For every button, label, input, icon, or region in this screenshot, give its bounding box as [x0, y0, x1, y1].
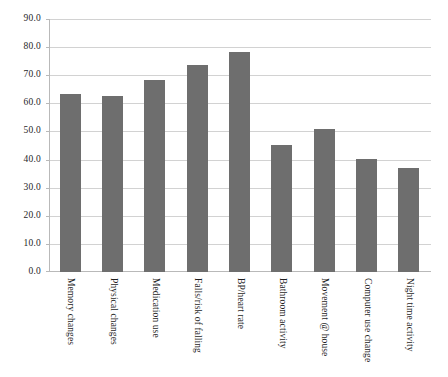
y-tick-label-40: 40.0	[24, 155, 41, 165]
x-label-slot: Computer use change	[356, 272, 377, 377]
x-label-slot: Memory changes	[60, 272, 81, 377]
bar-medication-use[interactable]	[144, 80, 165, 272]
bar-computer-use-change[interactable]	[356, 159, 377, 272]
x-tick-label-night-time-activity: Night time activity	[404, 278, 414, 352]
bar-memory-changes[interactable]	[60, 94, 81, 272]
x-tick-label-computer-use-change: Computer use change	[362, 278, 372, 362]
x-tick-label-physical-changes: Physical changes	[108, 278, 118, 345]
x-axis-labels: Memory changes Physical changes Medicati…	[49, 272, 430, 377]
x-tick-label-memory-changes: Memory changes	[65, 278, 75, 345]
x-tick-label-bp-heart-rate: BP/heart rate	[235, 278, 245, 329]
y-tick-label-30: 30.0	[24, 183, 41, 193]
x-label-slot: BP/heart rate	[229, 272, 250, 377]
bar-falls-risk-of-falling[interactable]	[187, 65, 208, 272]
y-tick-label-20: 20.0	[24, 211, 41, 221]
x-tick-label-bathroom-activity: Bathroom activity	[277, 278, 287, 349]
x-tick-label-medication-use: Medication use	[150, 278, 160, 338]
x-label-slot: Movement @ house	[314, 272, 335, 377]
y-tick-label-50: 50.0	[24, 127, 41, 137]
bar-chart: 90.0 80.0 70.0 60.0 50.0 40.0 30.0 20.0 …	[0, 0, 448, 377]
x-label-slot: Bathroom activity	[271, 272, 292, 377]
bar-physical-changes[interactable]	[102, 96, 123, 272]
bar-bp-heart-rate[interactable]	[229, 52, 250, 272]
y-tick-label-10: 10.0	[24, 239, 41, 249]
x-label-slot: Medication use	[144, 272, 165, 377]
x-label-slot: Physical changes	[102, 272, 123, 377]
y-tick-label-0: 0.0	[29, 267, 41, 277]
x-tick-label-movement-at-house: Movement @ house	[319, 278, 329, 356]
y-tick-label-70: 70.0	[24, 70, 41, 80]
y-tick-label-60: 60.0	[24, 99, 41, 109]
x-label-slot: Night time activity	[398, 272, 419, 377]
x-tick-label-falls-risk-of-falling: Falls/risk of falling	[192, 278, 202, 353]
y-tick-label-90: 90.0	[24, 14, 41, 24]
y-tick-label-80: 80.0	[24, 42, 41, 52]
bars-layer	[49, 19, 430, 272]
x-label-slot: Falls/risk of falling	[187, 272, 208, 377]
bar-bathroom-activity[interactable]	[271, 145, 292, 272]
bar-movement-at-house[interactable]	[314, 129, 335, 272]
y-axis-labels: 90.0 80.0 70.0 60.0 50.0 40.0 30.0 20.0 …	[0, 0, 45, 377]
bar-night-time-activity[interactable]	[398, 168, 419, 272]
